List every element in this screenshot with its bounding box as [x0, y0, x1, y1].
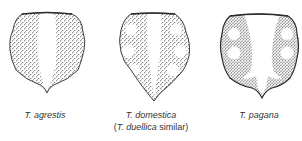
note-suffix: similar) [157, 122, 189, 132]
label-domestica: T. domestica [126, 110, 177, 121]
label-pagana: T. pagana [239, 110, 279, 121]
spider-carapace-pattern-figure: T. agrestis T. domestica (T. duellica si… [0, 0, 302, 141]
carapace-agrestis [8, 10, 88, 96]
species-name-pagana: T. pagana [239, 110, 279, 120]
species-name-agrestis: T. agrestis [24, 110, 65, 120]
carapace-pagana [218, 10, 302, 102]
label-agrestis: T. agrestis [24, 110, 65, 121]
species-name-duellica: T. duellica [117, 122, 157, 132]
carapace-domestica [116, 10, 194, 104]
label-domestica-note: (T. duellica similar) [114, 122, 189, 133]
species-name-domestica: T. domestica [126, 110, 177, 120]
